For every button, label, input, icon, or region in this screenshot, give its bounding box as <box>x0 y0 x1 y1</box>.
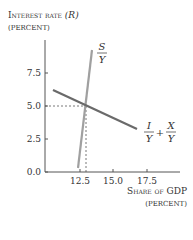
y-tick-label: 2.5 <box>27 134 42 144</box>
svg-text:Y: Y <box>99 54 107 65</box>
savings-curve <box>78 50 92 168</box>
x-tick-label: 15.0 <box>103 176 123 186</box>
x-axis-title-text: Share of GDP <box>127 186 187 196</box>
x-tick-label: 12.5 <box>70 176 90 186</box>
x-axis-unit: (PERCENT) <box>127 199 187 210</box>
svg-text:S: S <box>99 41 106 52</box>
svg-text:Y: Y <box>146 133 154 144</box>
investment-exports-curve-label: I Y + X Y <box>144 120 176 144</box>
svg-text:X: X <box>166 120 175 131</box>
y-tick-label: 5.0 <box>27 101 42 111</box>
x-axis-title: Share of GDP (PERCENT) <box>127 186 187 210</box>
y-tick-label: 0.0 <box>27 167 42 177</box>
svg-text:Y: Y <box>168 133 176 144</box>
svg-text:+: + <box>156 127 164 138</box>
investment-exports-curve <box>53 90 137 129</box>
savings-curve-label: S Y <box>97 41 107 65</box>
svg-text:I: I <box>146 120 152 131</box>
x-tick-label: 17.5 <box>137 176 157 186</box>
y-tick-label: 7.5 <box>27 68 42 78</box>
